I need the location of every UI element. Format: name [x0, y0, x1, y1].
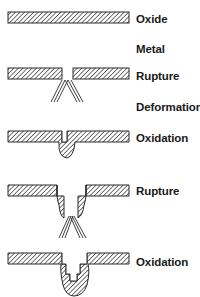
label-rupture-1: Rupture: [136, 70, 179, 82]
oxidation-stage-2: [8, 253, 129, 296]
label-oxidation-1: Oxidation: [136, 132, 188, 144]
label-oxidation-2: Oxidation: [136, 256, 188, 268]
slip-lines: [59, 216, 86, 238]
label-rupture-2: Rupture: [136, 185, 179, 197]
oxide-rupture-stage-2: [8, 185, 129, 238]
oxide-rupture-diagram: [0, 0, 200, 297]
oxidation-stage-1: [8, 131, 129, 158]
label-deformation: Deformation: [136, 101, 200, 113]
oxide-rupture-stage-1: [8, 68, 129, 102]
slip-lines: [51, 80, 83, 102]
label-metal: Metal: [136, 43, 165, 55]
intact-oxide-layer: [8, 12, 129, 23]
label-oxide: Oxide: [136, 13, 167, 25]
